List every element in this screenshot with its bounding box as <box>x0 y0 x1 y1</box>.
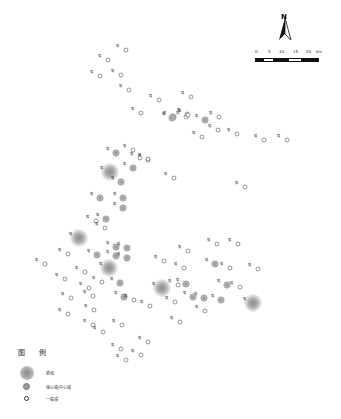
place-label: 镇 <box>61 291 64 296</box>
north-arrow-icon <box>271 14 301 44</box>
general-town-marker <box>106 58 110 62</box>
core-town-icon <box>23 383 30 390</box>
place-label: 镇 <box>227 127 230 132</box>
general-town-marker <box>103 226 107 230</box>
place-label: 镇 <box>277 133 280 138</box>
general-town-marker <box>43 262 47 266</box>
core-town-marker <box>118 179 124 185</box>
general-town-marker <box>189 95 193 99</box>
general-town-marker <box>120 323 124 327</box>
place-label: 镇 <box>130 151 133 156</box>
general-town-marker <box>98 74 102 78</box>
scale-tick: 0 <box>255 49 258 54</box>
core-town-marker <box>201 295 207 301</box>
place-label: 镇 <box>230 280 233 285</box>
general-town-marker <box>162 259 166 263</box>
scale-bar: 0 5 10 15 20 km <box>255 49 335 62</box>
place-label: 镇 <box>205 257 208 262</box>
place-label: 镇 <box>106 146 109 151</box>
place-label: 镇 <box>235 180 238 185</box>
place-label: 镇 <box>178 108 181 113</box>
place-label: 镇 <box>254 133 257 138</box>
place-label: 镇 <box>95 221 98 226</box>
place-label: 镇 <box>90 69 93 74</box>
place-label: 镇 <box>162 111 165 116</box>
place-label: 镇 <box>58 307 61 312</box>
scale-unit: km <box>316 49 322 54</box>
place-label: 镇 <box>111 342 114 347</box>
general-town-marker <box>262 138 266 142</box>
place-label: 镇 <box>100 165 103 170</box>
scale-tick: 20 <box>306 49 311 54</box>
place-label: 镇 <box>98 53 101 58</box>
core-town-marker <box>202 117 208 123</box>
place-label: 镇 <box>83 318 86 323</box>
place-label: 镇 <box>248 262 251 267</box>
place-label: 镇 <box>181 90 184 95</box>
general-town-marker <box>285 138 289 142</box>
general-town-marker <box>215 242 219 246</box>
general-town-marker <box>124 48 128 52</box>
place-label: 镇 <box>96 212 99 217</box>
place-label: 镇 <box>84 303 87 308</box>
general-town-marker <box>119 73 123 77</box>
place-label: 镇 <box>116 353 119 358</box>
general-town-marker <box>235 132 239 136</box>
general-town-marker <box>92 308 96 312</box>
place-label: 镇 <box>112 318 115 323</box>
core-town-marker <box>94 252 100 258</box>
place-label: 镇 <box>208 123 211 128</box>
place-label: 镇 <box>211 293 214 298</box>
place-label: 镇 <box>111 68 114 73</box>
place-label: 镇 <box>92 275 95 280</box>
place-label: 镇 <box>90 191 93 196</box>
place-label: 镇 <box>131 106 134 111</box>
general-town-marker <box>146 340 150 344</box>
place-label: 镇 <box>87 248 90 253</box>
place-label: 镇 <box>117 251 120 256</box>
place-label: 镇 <box>93 325 96 330</box>
general-town-marker <box>182 266 186 270</box>
legend-label: 核心镇/中心镇 <box>46 384 71 390</box>
new-city-icon <box>20 366 34 380</box>
core-town-marker <box>169 115 175 121</box>
general-town-marker <box>173 300 177 304</box>
general-town-marker <box>100 280 104 284</box>
place-label: 镇 <box>106 249 109 254</box>
place-label: 镇 <box>178 244 181 249</box>
place-label: 镇 <box>131 348 134 353</box>
new-city-marker <box>70 229 88 247</box>
legend-label: 新城 <box>46 370 54 376</box>
core-town-marker <box>130 165 136 171</box>
core-town-marker <box>212 261 218 267</box>
general-town-marker <box>256 267 260 271</box>
legend-item-general-town: 一般镇 <box>20 394 58 404</box>
place-label: 镇 <box>174 261 177 266</box>
place-label: 镇 <box>86 214 89 219</box>
place-label: 镇 <box>195 304 198 309</box>
general-town-marker <box>238 285 242 289</box>
place-label: 镇 <box>192 130 195 135</box>
general-town-marker <box>66 312 70 316</box>
place-label: 镇 <box>207 237 210 242</box>
place-label: 镇 <box>58 247 61 252</box>
place-label: 镇 <box>113 201 116 206</box>
legend-label: 一般镇 <box>46 396 58 402</box>
general-town-marker <box>63 277 67 281</box>
place-label: 镇 <box>106 240 109 245</box>
general-town-marker <box>228 266 232 270</box>
general-town-marker <box>83 270 87 274</box>
place-label: 镇 <box>113 191 116 196</box>
place-label: 镇 <box>99 261 102 266</box>
general-town-icon <box>24 396 29 401</box>
general-town-marker <box>146 157 150 161</box>
places-layer: 镇镇镇镇镇镇镇镇镇镇镇镇镇镇镇镇镇镇镇镇镇镇镇镇镇镇镇镇镇镇镇镇镇镇镇镇镇镇镇镇… <box>35 43 289 362</box>
core-town-marker <box>120 205 126 211</box>
core-town-marker <box>113 150 119 156</box>
legend-item-core-town: 核心镇/中心镇 <box>20 382 71 392</box>
legend-title: 图 例 <box>18 347 52 357</box>
general-town-marker <box>101 330 105 334</box>
place-label: 镇 <box>220 261 223 266</box>
place-label: 镇 <box>209 110 212 115</box>
place-label: 镇 <box>69 231 72 236</box>
